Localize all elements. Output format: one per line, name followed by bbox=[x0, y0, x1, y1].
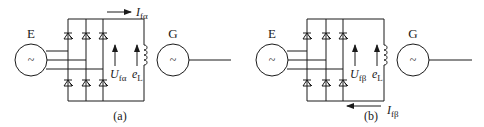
current-label: Ifα bbox=[135, 5, 148, 21]
ac-symbol: ~ bbox=[410, 53, 417, 67]
panel-a: ~ E Ufα bbox=[15, 5, 231, 123]
ac-symbol: ~ bbox=[269, 53, 276, 67]
field-winding bbox=[144, 19, 147, 101]
panel-caption: (b) bbox=[364, 109, 378, 123]
phase-wires bbox=[46, 51, 103, 69]
ac-symbol: ~ bbox=[28, 53, 35, 67]
generator-label: G bbox=[168, 26, 177, 41]
circuit-diagram: ~ E Ufα bbox=[0, 0, 484, 127]
generator-g: ~ G bbox=[397, 26, 472, 76]
emf-label: eL bbox=[372, 67, 383, 83]
exciter-label: E bbox=[268, 26, 276, 41]
exciter-e: ~ E bbox=[256, 26, 288, 76]
exciter-e: ~ E bbox=[15, 26, 47, 76]
voltage-label: Ufβ bbox=[350, 67, 367, 83]
panel-b: ~ E Ufβ eL bbox=[256, 19, 472, 123]
voltage-label: Ufα bbox=[110, 67, 127, 83]
phase-wires bbox=[287, 51, 343, 69]
inductor-icon bbox=[144, 45, 147, 65]
exciter-label: E bbox=[27, 26, 35, 41]
generator-g: ~ G bbox=[157, 26, 231, 76]
current-label: Ifβ bbox=[386, 103, 399, 119]
generator-label: G bbox=[408, 26, 417, 41]
emf-label: eL bbox=[132, 67, 143, 83]
field-winding bbox=[384, 19, 387, 101]
panel-caption: (a) bbox=[113, 109, 126, 123]
inductor-icon bbox=[384, 45, 387, 65]
ac-symbol: ~ bbox=[170, 53, 177, 67]
